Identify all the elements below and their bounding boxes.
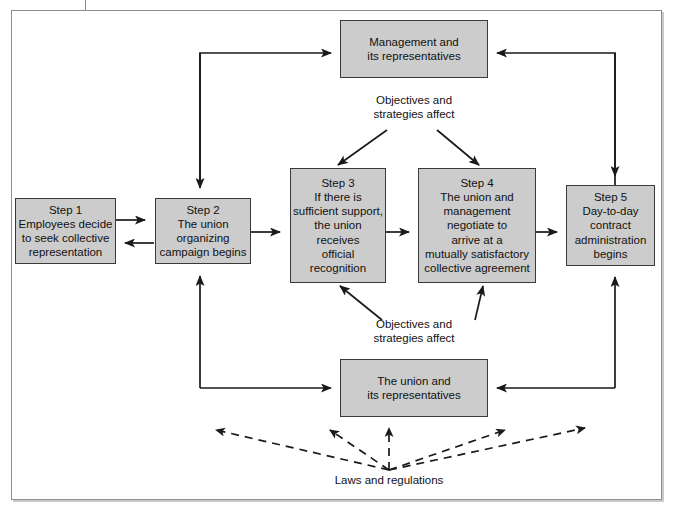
node-step1-line-2: to seek collective [22,231,110,245]
node-step4-line-4: arrive at a [451,233,502,247]
node-step4-line-1: The union and [440,190,514,204]
node-step3-line-6: recognition [310,261,366,275]
caption-objectives-bottom-line-0: Objectives and [334,317,494,331]
node-step5-line-4: begins [594,247,628,261]
node-step3-line-4: receives [317,233,360,247]
node-union[interactable]: The union and its representatives [340,359,488,417]
node-step5-line-0: Step 5 [594,190,627,204]
node-union-line-0: The union and [377,374,451,388]
node-step2-line-0: Step 2 [186,203,219,217]
node-step2-line-1: The union [177,217,228,231]
node-step1[interactable]: Step 1 Employees decide to seek collecti… [15,198,116,264]
diagram-page: Management and its representatives Step … [0,0,674,518]
node-step3-line-0: Step 3 [321,176,354,190]
node-step1-line-0: Step 1 [49,203,82,217]
node-step3-line-3: the union [314,218,361,232]
node-step4-line-0: Step 4 [460,176,493,190]
caption-objectives-top-line-0: Objectives and [334,93,494,107]
node-step1-line-3: representation [29,245,103,259]
node-step2-line-2: organizing [176,231,229,245]
node-management-line-1: its representatives [367,49,460,63]
node-step2-line-3: campaign begins [160,245,247,259]
node-step5-line-1: Day-to-day [582,204,638,218]
caption-objectives-bottom: Objectives and strategies affect [334,317,494,345]
node-step1-line-1: Employees decide [19,217,113,231]
caption-laws-and-regulations: Laws and regulations [309,473,469,487]
node-step4-line-3: negotiate to [447,218,507,232]
page-crop-mark [85,0,86,11]
node-step3-line-1: If there is [314,190,361,204]
node-step4-line-6: collective agreement [424,261,529,275]
caption-objectives-top: Objectives and strategies affect [334,93,494,121]
node-step4-line-2: management [443,204,510,218]
node-step2[interactable]: Step 2 The union organizing campaign beg… [155,198,251,264]
caption-objectives-top-line-1: strategies affect [334,107,494,121]
node-management[interactable]: Management and its representatives [340,20,488,78]
node-step4[interactable]: Step 4 The union and management negotiat… [418,168,536,283]
node-step5-line-3: administration [575,233,647,247]
node-step4-line-5: mutually satisfactory [425,247,529,261]
node-union-line-1: its representatives [367,388,460,402]
node-step3[interactable]: Step 3 If there is sufficient support, t… [290,168,386,283]
node-step5-line-2: contract [590,218,631,232]
caption-laws-line-0: Laws and regulations [309,473,469,487]
node-management-line-0: Management and [369,35,459,49]
node-step5[interactable]: Step 5 Day-to-day contract administratio… [566,185,655,266]
node-step3-line-5: official [322,247,354,261]
caption-objectives-bottom-line-1: strategies affect [334,331,494,345]
node-step3-line-2: sufficient support, [293,204,383,218]
